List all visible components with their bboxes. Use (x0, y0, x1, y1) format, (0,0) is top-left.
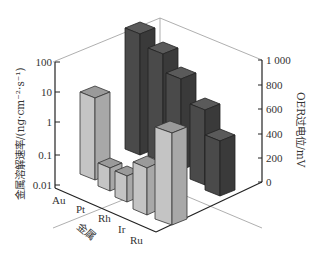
left-axis: 100 10 1 0.1 0.01 金属溶解速率/(ng·cm⁻²·s⁻¹) (14, 56, 60, 200)
right-axis: 1 000 800 600 400 200 0 OER过电位/mV (258, 54, 307, 188)
right-tick-400: 400 (266, 128, 283, 140)
left-tick-100: 100 (36, 56, 53, 68)
left-tick-1: 1 (47, 116, 53, 128)
left-tick-0.01: 0.01 (33, 179, 52, 191)
left-tick-0.1: 0.1 (38, 149, 52, 161)
right-tick-1000: 1 000 (266, 54, 291, 66)
right-tick-600: 600 (266, 103, 283, 115)
left-tick-10: 10 (41, 86, 53, 98)
category-ir: Ir (118, 223, 126, 235)
right-tick-0: 0 (266, 176, 272, 188)
category-ru: Ru (130, 234, 143, 246)
category-au: Au (52, 194, 66, 206)
bar-oer-ru (205, 129, 235, 196)
category-pt: Pt (76, 203, 85, 215)
category-rh: Rh (98, 212, 111, 224)
x-axis-label: 金属 (75, 220, 98, 242)
left-axis-label: 金属溶解速率/(ng·cm⁻²·s⁻¹) (14, 67, 26, 200)
bar-dissolution-ru (155, 121, 187, 225)
right-axis-label: OER过电位/mV (295, 92, 307, 168)
chart-3d-bar: 100 10 1 0.1 0.01 金属溶解速率/(ng·cm⁻²·s⁻¹) 1… (0, 0, 310, 261)
right-tick-800: 800 (266, 79, 283, 91)
right-tick-200: 200 (266, 152, 283, 164)
